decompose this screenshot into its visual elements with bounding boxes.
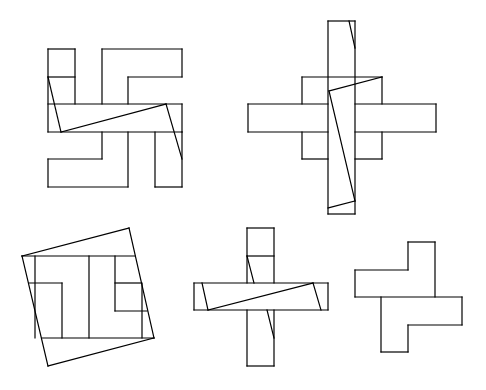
edge-line	[329, 91, 355, 201]
figure-tilted-square	[22, 228, 154, 366]
diagram-canvas: Dissection puzzle: five line-drawn figur…	[0, 0, 486, 390]
edge-line	[328, 201, 355, 208]
edge-line	[247, 256, 254, 283]
figure-interlocking-t	[355, 242, 462, 352]
edge-line	[313, 283, 321, 310]
edge-line	[61, 104, 166, 132]
edge-line	[349, 21, 355, 48]
edge-line	[267, 310, 274, 338]
figure-tall-cross	[248, 21, 436, 214]
edge-line	[22, 228, 129, 256]
edge-line	[202, 283, 208, 310]
edge-line	[208, 283, 313, 310]
figure-plus-shape	[194, 228, 328, 366]
dissection-diagram	[0, 0, 486, 390]
edge-line	[48, 338, 154, 366]
figure-hooked-cross	[48, 49, 182, 187]
